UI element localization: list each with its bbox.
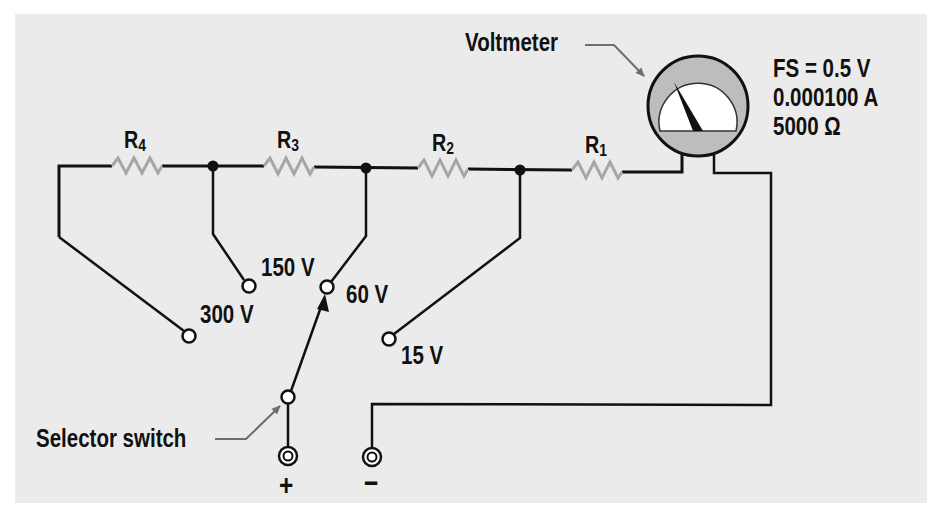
return-wire: [372, 154, 771, 448]
contact-60v[interactable]: [321, 281, 334, 294]
voltmeter-icon: [648, 56, 748, 156]
range-label-300v: 300 V: [200, 300, 254, 329]
contact-15v[interactable]: [383, 333, 396, 346]
resistor-label-r3: R3: [277, 126, 299, 156]
selector-switch-pivot[interactable]: [282, 391, 295, 404]
selector-callout-line: [215, 406, 280, 439]
positive-sign: +: [279, 468, 293, 502]
contact-150v[interactable]: [243, 280, 256, 293]
tap-wire-60v: [331, 168, 366, 282]
resistor-r2: [418, 160, 468, 176]
range-label-150v: 150 V: [261, 253, 315, 282]
resistor-label-r4: R4: [124, 126, 146, 156]
tap-wire-150v: [213, 166, 244, 280]
meter-full-scale: FS = 0.5 V: [773, 54, 878, 83]
range-label-15v: 15 V: [401, 341, 443, 370]
voltmeter-callout-line: [585, 45, 644, 76]
meter-specs: FS = 0.5 V 0.000100 A 5000 Ω: [773, 54, 878, 141]
positive-terminal[interactable]: [279, 447, 297, 465]
resistor-label-r2: R2: [432, 129, 454, 159]
meter-current: 0.000100 A: [773, 83, 878, 112]
selector-switch-arm[interactable]: [291, 294, 329, 391]
meter-resistance: 5000 Ω: [773, 112, 878, 141]
resistor-r4: [112, 158, 162, 173]
resistor-label-r1: R1: [585, 131, 607, 161]
tap-wire-15v: [394, 170, 520, 334]
selector-switch-callout-label: Selector switch: [36, 424, 186, 453]
negative-terminal[interactable]: [363, 448, 381, 466]
resistor-r1: [572, 162, 622, 178]
resistor-r3: [264, 158, 314, 174]
negative-sign: −: [364, 466, 378, 500]
range-label-60v: 60 V: [346, 280, 388, 309]
tap-wire-300v: [59, 237, 184, 331]
voltmeter-callout-label: Voltmeter: [465, 28, 558, 57]
contact-300v[interactable]: [183, 330, 196, 343]
